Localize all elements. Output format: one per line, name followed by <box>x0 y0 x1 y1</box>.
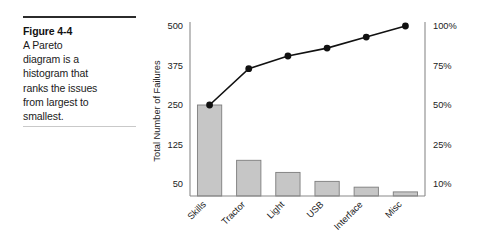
category-label-interface: Interface <box>332 199 365 232</box>
bar-interface <box>354 187 378 196</box>
caption-line-4: from largest to <box>23 95 136 109</box>
cumulative-point-usb <box>324 45 331 52</box>
y-axis-label: Total Number of Failures <box>152 60 162 162</box>
axes-group <box>190 22 425 196</box>
category-label-misc: Misc <box>383 199 404 220</box>
bar-tractor <box>237 160 261 196</box>
cumulative-line <box>210 26 406 105</box>
y-axis-title: Total Number of Failures <box>152 60 162 162</box>
figure-caption-block: Figure 4-4 A Pareto diagram is a histogr… <box>23 16 136 123</box>
pareto-chart-svg: 50125250375500 10%25%50%75%100% SkillsTr… <box>150 8 480 244</box>
caption-line-5: smallest. <box>23 109 136 123</box>
caption-bottom-rule <box>23 126 136 127</box>
bar-light <box>276 172 300 196</box>
y2-tick-75pct: 75% <box>433 61 452 71</box>
y-tick-250: 250 <box>167 100 183 110</box>
cumulative-point-tractor <box>245 65 252 72</box>
caption-line-2: histogram that <box>23 66 136 80</box>
category-label-usb: USB <box>305 199 326 220</box>
y-tick-500: 500 <box>167 21 183 31</box>
category-labels: SkillsTractorLightUSBInterfaceMisc <box>186 199 404 232</box>
bar-misc <box>393 192 417 196</box>
bars-group <box>197 105 417 196</box>
right-axis-ticks: 10%25%50%75%100% <box>433 21 457 189</box>
cumulative-line-group <box>210 26 406 105</box>
figure-number: Figure 4-4 <box>23 24 136 38</box>
figure-page: Figure 4-4 A Pareto diagram is a histogr… <box>0 0 489 244</box>
cumulative-points-group <box>206 23 409 109</box>
cumulative-point-light <box>285 53 292 60</box>
y-tick-125: 125 <box>167 140 183 150</box>
pareto-chart: 50125250375500 10%25%50%75%100% SkillsTr… <box>150 8 480 244</box>
cumulative-point-misc <box>402 23 409 30</box>
category-label-tractor: Tractor <box>220 199 248 227</box>
y2-tick-25pct: 25% <box>433 140 452 150</box>
caption-line-1: diagram is a <box>23 52 136 66</box>
caption-top-rule <box>23 16 136 18</box>
category-label-skills: Skills <box>186 199 209 222</box>
bar-usb <box>315 181 339 196</box>
y2-tick-50pct: 50% <box>433 100 452 110</box>
y2-tick-10pct: 10% <box>433 179 452 189</box>
caption-line-3: ranks the issues <box>23 81 136 95</box>
category-label-light: Light <box>265 199 287 221</box>
cumulative-point-interface <box>363 34 370 41</box>
y2-tick-100pct: 100% <box>433 21 457 31</box>
bar-skills <box>197 105 221 196</box>
y-tick-50: 50 <box>173 179 183 189</box>
left-axis-ticks: 50125250375500 <box>167 21 183 189</box>
caption-line-0: A Pareto <box>23 38 136 52</box>
cumulative-point-skills <box>206 102 213 109</box>
y-tick-375: 375 <box>167 61 183 71</box>
